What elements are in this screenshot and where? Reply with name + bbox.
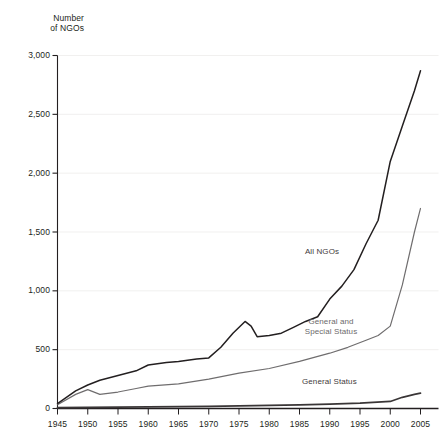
series-line-general-status [58,393,421,407]
x-tick-label: 1950 [71,419,105,429]
x-tick-label: 1975 [222,419,256,429]
y-tick-marks-group [53,56,58,409]
series-label-general-status: General Status [302,377,376,387]
x-tick-label: 1965 [162,419,196,429]
x-tick-label: 2005 [404,419,438,429]
x-tick-label: 1945 [41,419,75,429]
y-tick-label: 2,500 [8,109,50,119]
series-line-general-and-special-status [58,208,421,404]
x-tick-label: 2000 [373,419,407,429]
x-tick-label: 1985 [283,419,317,429]
y-tick-label: 1,500 [8,227,50,237]
x-tick-label: 1970 [192,419,226,429]
y-tick-label: 500 [8,344,50,354]
x-tick-label: 1990 [313,419,347,429]
series-label-all-ngos: All NGOs [296,247,348,257]
x-tick-label: 1955 [101,419,135,429]
y-tick-label: 0 [8,403,50,413]
series-label-general-and-special-status: General and Special Status [296,317,366,336]
ngo-growth-line-chart: Number of NGOs 05001,0001,5002,0002,5003… [0,0,441,448]
y-tick-label: 1,000 [8,285,50,295]
y-tick-label: 3,000 [8,50,50,60]
y-tick-label: 2,000 [8,168,50,178]
x-tick-marks-group [58,409,421,415]
x-tick-label: 1980 [252,419,286,429]
x-tick-label: 1995 [343,419,377,429]
series-line-all-ngos [58,71,421,404]
x-tick-label: 1960 [131,419,165,429]
